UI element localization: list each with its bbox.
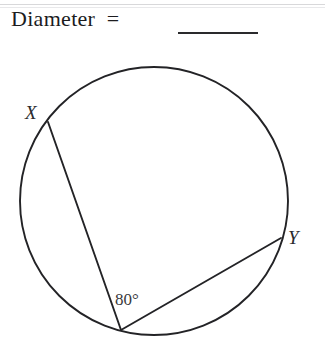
point-label-y: Y [288, 228, 299, 247]
point-label-x: X [25, 103, 37, 122]
geometry-figure [0, 0, 325, 345]
circle-shape [20, 67, 288, 335]
worksheet-page: Diameter = X Y 80° [0, 0, 325, 345]
angle-measure-label: 80° [115, 291, 139, 309]
